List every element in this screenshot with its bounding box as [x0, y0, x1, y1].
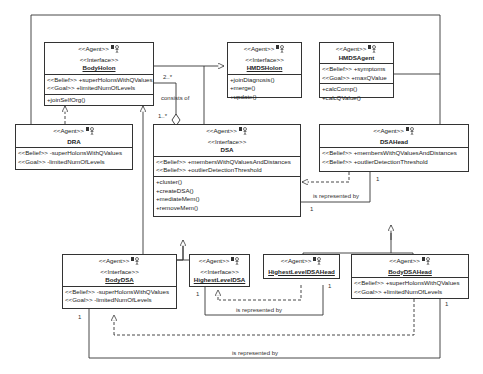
agent-icon: [368, 45, 377, 53]
stereotype: <<Agent>>: [228, 45, 301, 54]
operation: +merge(): [230, 84, 299, 93]
attribute: <<Goal>> +limitedNumOfLevels: [354, 288, 466, 297]
class-name: HMDSHolon: [228, 64, 301, 74]
multiplicity-label: 2..*: [163, 74, 172, 80]
class-name: HMDSAgent: [320, 54, 393, 64]
agent-icon: [406, 127, 415, 135]
agent-icon: [313, 257, 322, 265]
attributes: <<Belief>> +symptoms <<Goal>> +maxQValue: [320, 63, 393, 83]
interface-stereotype: <<Interface>>: [45, 56, 153, 65]
operation: +update(): [230, 93, 299, 102]
class-name: DRA: [16, 138, 132, 148]
attribute: <<Belief>> +superHolonsWithQValues: [354, 279, 466, 288]
stereotype: <<Agent>>: [190, 257, 249, 266]
attribute: <<Belief>> +membersWithQValuesAndDistanc…: [322, 149, 466, 158]
multiplicity-label: 1: [445, 301, 448, 307]
attributes: <<Belief>> +membersWithQValuesAndDistanc…: [320, 147, 468, 167]
interface-stereotype: <<Interface>>: [154, 138, 300, 147]
consists-of-label: consists of: [161, 95, 189, 101]
agent-icon: [231, 257, 240, 265]
stereotype: <<Agent>>: [16, 127, 132, 136]
stereotype: <<Agent>>: [45, 45, 153, 54]
stereotype: <<Agent>>: [320, 127, 468, 136]
attribute: <<Goal>> -limitedNumOfLevels: [18, 158, 130, 167]
class-bodyholon[interactable]: <<Agent>> <<Interface>> BodyHolon <<Beli…: [44, 42, 154, 106]
multiplicity-label: 1..*: [158, 113, 167, 119]
interface-stereotype: <<Interface>>: [228, 56, 301, 65]
stereotype: <<Agent>>: [63, 257, 176, 266]
class-name: HighestLevelDSAHead: [264, 268, 339, 278]
attributes: <<Belief>> -superHolonsWithQValues <<Goa…: [63, 286, 176, 306]
attribute: <<Belief>> -superHolonsWithQValues: [65, 288, 174, 297]
stereotype: <<Agent>>: [154, 127, 300, 136]
agent-icon: [131, 257, 140, 265]
operation: +createDSA(): [156, 187, 298, 196]
class-dsa[interactable]: <<Agent>> <<Interface>> DSA <<Belief>> +…: [153, 124, 301, 217]
stereotype: <<Agent>>: [352, 257, 468, 266]
class-name: BodyDSAHead: [352, 268, 468, 278]
class-dsahead[interactable]: <<Agent>> DSAHead <<Belief>> +membersWit…: [319, 124, 469, 172]
operation: +removeMem(): [156, 204, 298, 213]
attributes: <<Belief>> -superHolonsWithQValues <<Goa…: [16, 147, 132, 167]
attribute: <<Belief>> +outlierDetectionThreshold: [156, 166, 298, 175]
stereotype: <<Agent>>: [264, 257, 339, 266]
class-dra[interactable]: <<Agent>> DRA <<Belief>> -superHolonsWit…: [15, 124, 133, 170]
interface-stereotype: <<Interface>>: [190, 268, 249, 277]
agent-icon: [86, 127, 95, 135]
multiplicity-label: 1: [310, 206, 313, 212]
operations: +calcComp() +calcQValue(): [320, 83, 393, 103]
attribute: <<Belief>> +outlierDetectionThreshold: [322, 158, 466, 167]
operation: +mediateMem(): [156, 195, 298, 204]
multiplicity-label: 1: [376, 176, 379, 182]
class-name: BodyHolon: [45, 64, 153, 74]
operation: +cluster(): [156, 178, 298, 187]
class-name: BodyDSA: [63, 276, 176, 286]
highestleveldsa-represented: [219, 285, 301, 300]
attribute: <<Goal>> +limitedNumOfLevels: [47, 84, 151, 93]
attribute: <<Goal>> -limitedNumOfLevels: [65, 296, 174, 305]
attribute: <<Belief>> -superHolonsWithQValues: [18, 149, 130, 158]
class-bodydsahead[interactable]: <<Agent>> BodyDSAHead <<Belief>> +superH…: [351, 254, 469, 299]
operations: +cluster() +createDSA() +mediateMem() +r…: [154, 176, 300, 213]
operations: +joinDiagnosis() +merge() +update(): [228, 74, 301, 103]
class-highestleveldsa[interactable]: <<Agent>> <<Interface>> HighestLevelDSA: [189, 254, 250, 287]
interface-stereotype: <<Interface>>: [63, 268, 176, 277]
class-hmdsholon[interactable]: <<Agent>> <<Interface>> HMDSHolon +joinD…: [227, 42, 302, 98]
operations: +joinSelfOrg(): [45, 94, 153, 106]
operation: +joinDiagnosis(): [230, 76, 299, 85]
class-name: HighestLevelDSA: [190, 276, 249, 286]
attribute: <<Belief>> +symptoms: [322, 65, 391, 74]
agent-icon: [111, 45, 120, 53]
represented-by-label: is represented by: [236, 307, 282, 313]
attribute: <<Belief>> +superHolonsWithQValues: [47, 76, 151, 85]
attribute: <<Goal>> +maxQValue: [322, 74, 391, 83]
agent-icon: [422, 257, 431, 265]
agent-icon: [276, 45, 285, 53]
attributes: <<Belief>> +superHolonsWithQValues <<Goa…: [45, 74, 153, 94]
multiplicity-label: 1: [328, 283, 331, 289]
attributes: <<Belief>> +superHolonsWithQValues <<Goa…: [352, 277, 468, 297]
class-name: DSA: [154, 146, 300, 156]
agent-icon: [239, 127, 248, 135]
class-name: DSAHead: [320, 138, 468, 148]
class-highestleveldsahead[interactable]: <<Agent>> HighestLevelDSAHead: [263, 254, 340, 279]
attributes: <<Belief>> +membersWithQValuesAndDistanc…: [154, 156, 300, 176]
operation: +calcComp(): [322, 85, 391, 94]
operation: +joinSelfOrg(): [47, 96, 151, 105]
operation: +calcQValue(): [322, 94, 391, 103]
multiplicity-label: 1: [196, 291, 199, 297]
multiplicity-label: 1: [78, 314, 81, 320]
attribute: <<Belief>> +membersWithQValuesAndDistanc…: [156, 158, 298, 167]
represented-by-label: is represented by: [313, 193, 359, 199]
dsa-represented-by-dsahead: [302, 172, 349, 182]
represented-by-label: is represented by: [232, 350, 278, 356]
class-hmdsagent[interactable]: <<Agent>> HMDSAgent <<Belief>> +symptoms…: [319, 42, 394, 98]
class-bodydsa[interactable]: <<Agent>> <<Interface>> BodyDSA <<Belief…: [62, 254, 177, 309]
stereotype: <<Agent>>: [320, 45, 393, 54]
